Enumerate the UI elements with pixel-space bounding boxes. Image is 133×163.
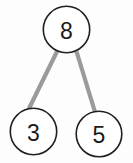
node-whole-label: 8 xyxy=(60,18,73,44)
connector-whole-to-part-right xyxy=(77,52,96,113)
node-part-left[interactable]: 3 xyxy=(10,108,56,154)
node-whole[interactable]: 8 xyxy=(43,6,89,52)
node-part-right[interactable]: 5 xyxy=(76,111,122,157)
connector-whole-to-part-left xyxy=(29,52,58,110)
node-part-left-label: 3 xyxy=(27,120,40,146)
number-bond-diagram: 8 3 5 xyxy=(0,0,133,163)
node-part-right-label: 5 xyxy=(93,122,106,148)
diagram-canvas: 8 3 5 xyxy=(0,0,133,163)
